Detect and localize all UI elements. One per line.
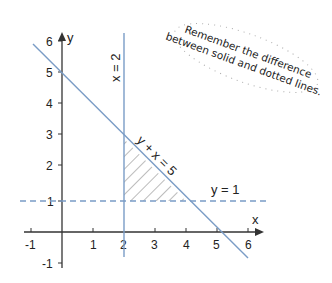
- x-axis: [24, 228, 264, 236]
- x-tick-6: 6: [245, 238, 252, 252]
- label-y-equals-1: y = 1: [211, 182, 240, 197]
- x-tick-5: 5: [213, 238, 220, 252]
- y-tick-5: 5: [46, 66, 53, 80]
- y-axis-label: y: [67, 30, 74, 45]
- y-tick-6: 6: [46, 35, 53, 49]
- y-tick-2: 2: [46, 159, 53, 173]
- x-axis-label: x: [252, 212, 259, 227]
- x-tick-1: 1: [90, 238, 97, 252]
- line-y-plus-x-equals-5: [33, 44, 248, 258]
- label-x-equals-2: x = 2: [108, 53, 123, 82]
- y-tick-3: 3: [46, 128, 53, 142]
- x-tick-3: 3: [151, 238, 158, 252]
- y-tick-4: 4: [46, 97, 53, 111]
- y-tick-1: 1: [47, 195, 54, 209]
- x-tick-neg1: -1: [25, 238, 36, 252]
- x-tick-4: 4: [183, 238, 190, 252]
- y-tick-neg1: -1: [42, 257, 53, 271]
- note-callout: Remember the difference between solid an…: [160, 7, 332, 109]
- graph-canvas: x y -1 1 2 3 4 5 6 6 5 4 3 2 1 -1 x = 2 …: [0, 0, 332, 283]
